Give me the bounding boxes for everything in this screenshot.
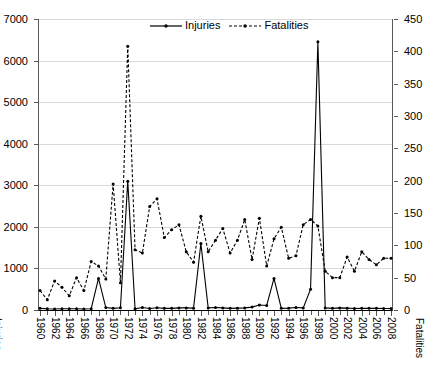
x-axis-tick-label: 1986	[225, 317, 235, 339]
data-point	[60, 307, 63, 310]
y-axis-left-tick-label: 6000	[4, 55, 28, 66]
x-axis-tick	[376, 311, 377, 316]
x-axis-tick	[267, 311, 268, 315]
data-point	[338, 276, 341, 279]
data-point	[119, 306, 122, 309]
x-axis-tick-label: 1992	[269, 317, 279, 339]
x-axis-labels: 1960196219641966196819701972197419761978…	[38, 317, 394, 361]
x-axis-tick	[179, 311, 180, 315]
y-axis-right-tick-label: 50	[404, 272, 416, 283]
x-axis-tick-label: 1974	[137, 317, 147, 339]
y-axis-right-tick	[394, 213, 398, 214]
y-axis-left-tick-label: 7000	[4, 14, 28, 25]
plot-area	[38, 19, 393, 311]
data-point	[382, 307, 385, 310]
data-point	[302, 223, 305, 226]
data-point	[316, 224, 319, 227]
data-point	[126, 180, 129, 183]
data-point	[265, 304, 268, 307]
data-point	[390, 257, 393, 260]
data-point	[258, 217, 261, 220]
y-axis-right-tick-label: 0	[404, 305, 410, 316]
data-point	[207, 250, 210, 253]
data-point	[273, 237, 276, 240]
data-point	[324, 306, 327, 309]
data-point	[331, 276, 334, 279]
legend-key-fatalities-icon	[229, 21, 261, 31]
x-axis-tick	[237, 311, 238, 315]
y-axis-right-tick-label: 100	[404, 240, 422, 251]
x-axis-tick	[347, 311, 348, 316]
x-axis-tick	[194, 311, 195, 315]
x-axis-tick	[208, 311, 209, 315]
data-point	[265, 265, 268, 268]
x-axis-tick	[55, 311, 56, 316]
data-point	[338, 306, 341, 309]
data-point	[82, 307, 85, 310]
chart-container: 01000200030004000500060007000 0501001502…	[0, 0, 436, 374]
data-point	[170, 307, 173, 310]
x-axis-tick-label: 2004	[357, 317, 367, 339]
data-point	[192, 307, 195, 310]
data-point	[375, 307, 378, 310]
data-point	[302, 306, 305, 309]
data-point	[170, 228, 173, 231]
data-point	[229, 307, 232, 310]
y-axis-left-tick-label: 2000	[4, 221, 28, 232]
data-point	[368, 307, 371, 310]
series-layer	[39, 19, 392, 310]
x-axis-tick-label: 2002	[342, 317, 352, 339]
y-axis-right-tick-label: 200	[404, 175, 422, 186]
x-axis-tick-label: 1972	[123, 317, 133, 339]
x-axis-tick	[99, 311, 100, 316]
y-axis-right-tick	[394, 245, 398, 246]
x-axis-tick	[384, 311, 385, 315]
data-point	[207, 306, 210, 309]
x-axis-tick	[252, 311, 253, 315]
y-axis-left-tick-label: 4000	[4, 138, 28, 149]
x-axis-tick	[201, 311, 202, 316]
data-point	[39, 289, 42, 292]
x-axis-tick	[157, 311, 158, 316]
y-axis-right-tick	[394, 51, 398, 52]
data-point	[287, 307, 290, 310]
x-axis-tick-label: 2008	[386, 317, 396, 339]
data-point	[287, 257, 290, 260]
data-point	[148, 205, 151, 208]
x-axis-tick	[135, 311, 136, 315]
legend-key-injuries-icon	[150, 21, 182, 31]
x-axis-tick	[340, 311, 341, 315]
x-axis-tick-label: 1990	[254, 317, 264, 339]
y-axis-right-tick	[394, 310, 398, 311]
x-axis-tick	[77, 311, 78, 315]
x-axis-tick-label: 2006	[371, 317, 381, 339]
data-point	[75, 276, 78, 279]
y-axis-right-tick-label: 450	[404, 14, 422, 25]
legend-label: Fatalities	[264, 20, 308, 31]
data-point	[141, 306, 144, 309]
data-point	[360, 250, 363, 253]
data-point	[368, 258, 371, 261]
data-point	[112, 182, 115, 185]
data-point	[251, 258, 254, 261]
data-point	[68, 294, 71, 297]
x-axis-tick	[150, 311, 151, 315]
data-point	[199, 242, 202, 245]
data-point	[243, 218, 246, 221]
y-axis-right-tick	[394, 19, 398, 20]
data-point	[331, 307, 334, 310]
x-axis-tick-label: 1978	[167, 317, 177, 339]
y-axis-right-title: Fatalities	[414, 318, 424, 358]
x-axis-tick-label: 1968	[94, 317, 104, 339]
data-point	[390, 307, 393, 310]
x-axis-tick-label: 1980	[181, 317, 191, 339]
data-point	[382, 257, 385, 260]
data-point	[60, 286, 63, 289]
data-point	[258, 304, 261, 307]
x-axis-tick-label: 1996	[298, 317, 308, 339]
data-point	[163, 307, 166, 310]
y-axis-right-tick-label: 250	[404, 143, 422, 154]
data-point	[126, 45, 129, 48]
y-axis-right-tick	[394, 116, 398, 117]
x-axis-tick-label: 1988	[240, 317, 250, 339]
